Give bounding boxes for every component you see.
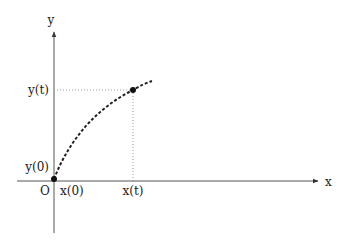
origin-label: O: [40, 184, 50, 198]
tick-label-xt: x(t): [123, 184, 144, 198]
tick-label-y0: y(0): [24, 160, 49, 174]
y-axis-label: y: [47, 13, 55, 27]
trajectory-curve: [54, 81, 152, 179]
point-t: [130, 87, 136, 93]
x-axis-label: x: [325, 175, 332, 189]
parametric-curve-diagram: y x O x(0) x(t) y(0) y(t): [0, 0, 351, 248]
point-origin: [51, 176, 57, 182]
tick-label-yt: y(t): [27, 83, 49, 97]
tick-label-x0: x(0): [60, 184, 84, 198]
